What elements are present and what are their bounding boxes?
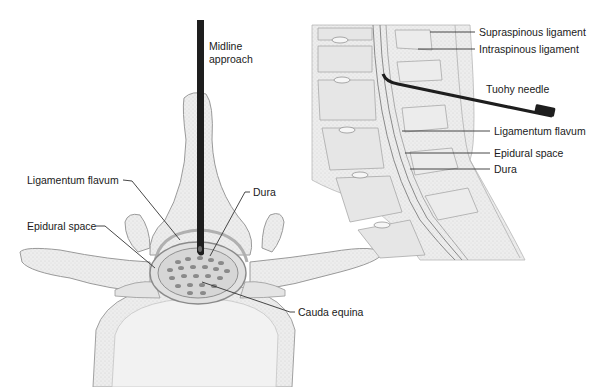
label-midline-line1: Midline: [209, 40, 253, 53]
label-epidural-space-right: Epidural space: [494, 147, 563, 160]
label-midline-line2: approach: [209, 53, 253, 66]
label-midline-approach: Midline approach: [209, 40, 253, 66]
label-cauda-equina: Cauda equina: [298, 306, 363, 319]
label-tuohy-needle: Tuohy needle: [486, 83, 549, 96]
sagittal-spine: [312, 25, 556, 260]
label-dura-left: Dura: [253, 186, 276, 199]
label-ligamentum-flavum-right: Ligamentum flavum: [494, 125, 586, 138]
illustration: [0, 0, 607, 387]
label-dura-right: Dura: [494, 163, 517, 176]
label-ligamentum-flavum-left: Ligamentum flavum: [27, 174, 119, 187]
label-epidural-space-left: Epidural space: [27, 220, 96, 233]
label-intraspinous-ligament: Intraspinous ligament: [479, 43, 579, 56]
label-supraspinous-ligament: Supraspinous ligament: [479, 26, 586, 39]
midline-needle: [197, 20, 204, 245]
